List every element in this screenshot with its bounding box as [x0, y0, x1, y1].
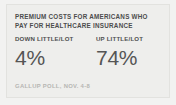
headline-line-1: PREMIUM COSTS FOR AMERICANS WHO	[15, 12, 163, 21]
stat-down-little-lot: DOWN LITTLE/LOT 4%	[15, 35, 74, 69]
stat-card: PREMIUM COSTS FOR AMERICANS WHO PAY FOR …	[6, 4, 170, 98]
stats-row: DOWN LITTLE/LOT 4% UP LITTLE/LOT 74%	[15, 35, 165, 77]
stat-up-label: UP LITTLE/LOT	[96, 35, 143, 43]
source-caption: GALLUP POLL, NOV. 4-8	[15, 83, 90, 89]
stat-up-value: 74%	[96, 47, 143, 69]
page-title: PREMIUM COSTS FOR AMERICANS WHO PAY FOR …	[15, 12, 163, 30]
stat-up-little-lot: UP LITTLE/LOT 74%	[96, 35, 143, 69]
stat-down-label: DOWN LITTLE/LOT	[15, 35, 74, 43]
headline-line-2: PAY FOR HEALTHCARE INSURANCE	[15, 21, 163, 30]
stat-down-value: 4%	[15, 47, 74, 69]
